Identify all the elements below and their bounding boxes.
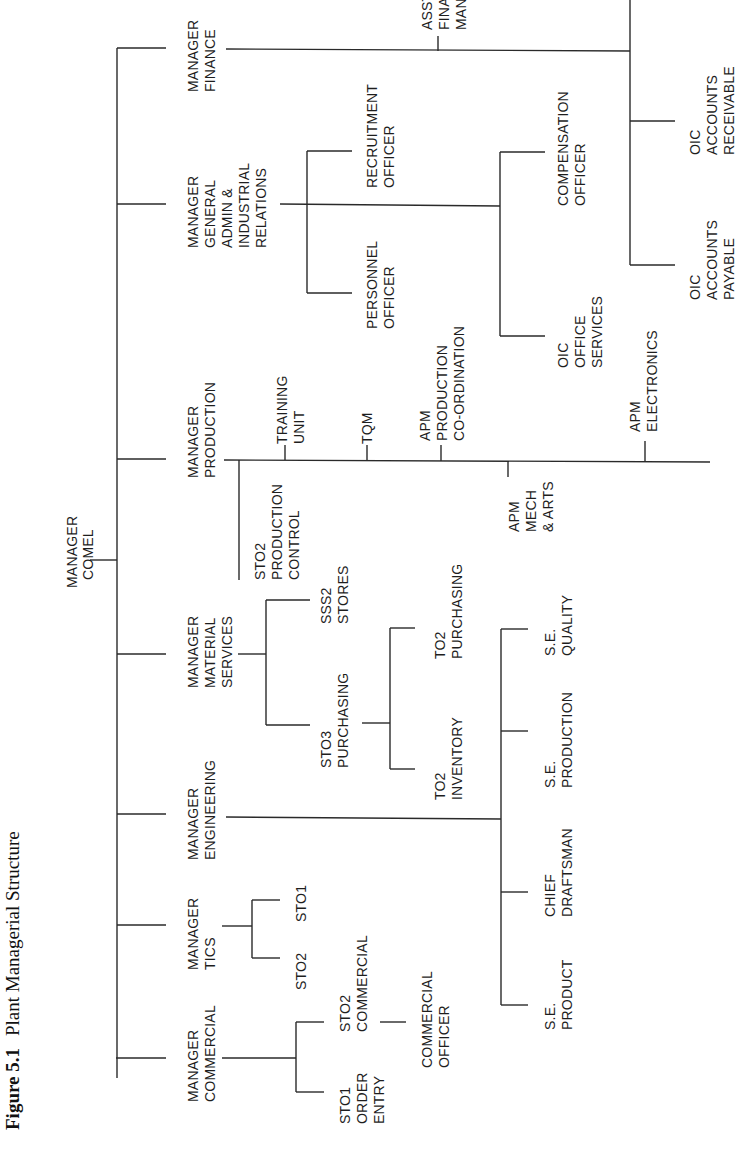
node-se-production: S.E. PRODUCTION xyxy=(542,692,575,788)
node-to2-purchasing: TO2 PURCHASING xyxy=(432,564,465,659)
node-oic-office-services: OIC OFFICE SERVICES xyxy=(555,296,605,368)
node-manager-general-admin: MANAGER GENERAL ADMIN & INDUSTRIAL RELAT… xyxy=(185,159,269,248)
node-chief-draftsman: CHIEF DRAFTSMAN xyxy=(542,828,575,917)
node-asst-finance-manager: ASST FINANCE MANAGER xyxy=(419,0,469,30)
figure-title: Plant Managerial Structure xyxy=(2,831,23,1036)
node-labels: MANAGER COMEL MANAGER FINANCE ASST FINAN… xyxy=(64,0,737,1124)
node-apm-production-coordination: APM PRODUCTION CO-ORDINATION xyxy=(417,326,467,441)
node-apm-mech-arts: APM MECH & ARTS xyxy=(506,481,556,532)
node-sss2-stores: SSS2 STORES xyxy=(318,565,351,624)
node-manager-finance: MANAGER FINANCE xyxy=(185,16,218,92)
node-sto3-purchasing: STO3 PURCHASING xyxy=(318,673,351,768)
node-commercial-officer: COMMERCIAL OFFICER xyxy=(419,968,452,1068)
node-sto2-commercial: STO2 COMMERCIAL xyxy=(337,935,370,1032)
figure-caption: Figure 5.1 Plant Managerial Structure xyxy=(2,831,23,1130)
node-training-unit: TRAINING UNIT xyxy=(274,371,307,444)
node-oic-accounts-receivable: OIC ACCOUNTS RECEIVABLE xyxy=(687,66,737,155)
node-oic-accounts-payable: OIC ACCOUNTS PAYABLE xyxy=(687,216,737,300)
node-sto2-production-control: STO2 PRODUCTION CONTROL xyxy=(252,480,302,580)
node-manager-comel: MANAGER COMEL xyxy=(64,512,96,588)
node-manager-material-services: MANAGER MATERIAL SERVICES xyxy=(185,612,235,688)
node-tics-sto1: STO1 xyxy=(293,885,309,922)
node-tqm: TQM xyxy=(359,412,375,444)
node-manager-production: MANAGER PRODUCTION xyxy=(185,382,218,478)
node-manager-commercial: MANAGER COMMERCIAL xyxy=(185,1005,218,1102)
node-personnel-officer: PERSONNEL OFFICER xyxy=(364,237,397,329)
node-to2-inventory: TO2 INVENTORY xyxy=(432,717,465,800)
node-compensation-officer: COMPENSATION OFFICER xyxy=(555,87,588,206)
node-apm-electronics: APM ELECTRONICS xyxy=(627,330,660,432)
node-se-quality: S.E. QUALITY xyxy=(542,594,575,656)
node-sto1-order-entry: STO1 ORDER ENTRY xyxy=(337,1068,387,1124)
org-chart: Figure 5.1 Plant Managerial Structure xyxy=(0,0,742,1167)
node-manager-engineering: MANAGER ENGINEERING xyxy=(185,760,218,860)
node-recruitment-officer: RECRUITMENT OFFICER xyxy=(364,80,397,188)
connector-lines xyxy=(90,0,710,1092)
node-manager-tics: MANAGER TICS xyxy=(185,894,218,970)
figure-number: Figure 5.1 xyxy=(2,1048,23,1130)
node-se-product: S.E. PRODUCT xyxy=(542,959,575,1030)
node-tics-sto2: STO2 xyxy=(293,953,309,990)
